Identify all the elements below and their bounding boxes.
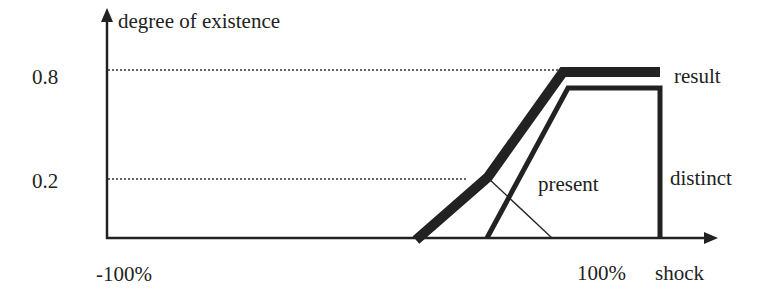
x-axis-label: shock — [655, 261, 704, 285]
degree-of-existence-diagram: degree of existence 0.8 0.2 -100% 100% s… — [0, 0, 784, 301]
distinct-curve — [487, 88, 660, 238]
distinct-label: distinct — [670, 166, 732, 190]
y-axis-label: degree of existence — [118, 9, 280, 33]
present-label: present — [538, 172, 599, 196]
y-tick-0.2: 0.2 — [32, 169, 58, 193]
y-axis-arrow-icon — [101, 8, 113, 22]
x-axis-arrow-icon — [704, 232, 718, 244]
result-curve — [416, 72, 660, 240]
result-label: result — [674, 64, 721, 88]
y-tick-0.8: 0.8 — [32, 65, 58, 89]
x-tick-minus-100: -100% — [96, 262, 152, 286]
x-tick-100: 100% — [577, 261, 626, 285]
